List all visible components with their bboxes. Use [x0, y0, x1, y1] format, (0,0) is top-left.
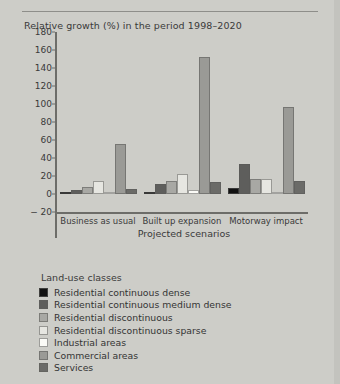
bar	[250, 179, 261, 194]
bar	[199, 57, 210, 194]
legend-items: Residential continuous denseResidential …	[39, 286, 299, 374]
plot-area	[56, 32, 308, 212]
legend-item: Industrial areas	[39, 336, 299, 349]
legend-item-label: Industrial areas	[54, 337, 126, 348]
y-axis-tick-label: 40	[16, 153, 52, 163]
legend: Land-use classes Residential continuous …	[39, 272, 299, 374]
bar	[283, 107, 294, 194]
bar-group	[60, 32, 137, 212]
legend-swatch-icon	[39, 288, 48, 297]
legend-swatch-icon	[39, 326, 48, 335]
bar-group	[228, 32, 305, 212]
bar	[210, 182, 221, 194]
bar	[188, 190, 199, 195]
y-axis-tick-label: 160	[16, 45, 52, 55]
x-axis-title: Projected scenarios	[0, 228, 340, 239]
y-axis-tick-label: 120	[16, 81, 52, 91]
legend-swatch-icon	[39, 351, 48, 360]
bar	[239, 164, 250, 194]
y-axis-tick-label: 140	[16, 63, 52, 73]
x-axis-category-label: Business as usual	[56, 216, 140, 226]
y-axis-tick-label: 20	[16, 171, 52, 181]
y-axis-tick-label: 100	[16, 99, 52, 109]
legend-item: Residential continuous medium dense	[39, 299, 299, 312]
bar	[294, 181, 305, 194]
y-axis-tick-label: 0	[16, 189, 52, 199]
legend-item-label: Residential discontinuous sparse	[54, 325, 206, 336]
legend-swatch-icon	[39, 313, 48, 322]
bar	[93, 181, 104, 195]
bar	[155, 184, 166, 194]
y-axis-tick-label: 180	[16, 27, 52, 37]
x-axis-line	[55, 212, 308, 214]
bar	[177, 174, 188, 194]
bar	[126, 189, 137, 194]
bar	[82, 187, 93, 194]
bar	[228, 188, 239, 194]
x-axis-category-label: Motorway impact	[224, 216, 308, 226]
bar	[104, 192, 115, 194]
bar	[261, 179, 272, 194]
bar	[115, 144, 126, 194]
legend-item-label: Services	[54, 362, 93, 373]
x-axis-category-label: Built up expansion	[140, 216, 224, 226]
bar	[60, 192, 71, 194]
legend-swatch-icon	[39, 363, 48, 372]
legend-item: Commercial areas	[39, 349, 299, 362]
legend-item-label: Residential continuous dense	[54, 287, 190, 298]
y-axis-tick-labels: 180160140120100806040200− 20	[14, 32, 52, 238]
y-axis-tick-label: − 20	[16, 207, 52, 217]
legend-item-label: Residential continuous medium dense	[54, 299, 232, 310]
legend-title: Land-use classes	[39, 272, 299, 283]
plot-wrapper: 180160140120100806040200− 20 Business as…	[0, 32, 340, 247]
bar	[272, 192, 283, 194]
legend-item-label: Commercial areas	[54, 350, 138, 361]
x-axis-title-text: Projected scenarios	[110, 228, 231, 239]
bar	[166, 181, 177, 194]
legend-swatch-icon	[39, 338, 48, 347]
legend-item: Residential continuous dense	[39, 286, 299, 299]
y-axis-tick-label: 80	[16, 117, 52, 127]
bar	[144, 192, 155, 194]
legend-item: Services	[39, 362, 299, 375]
chart-title: Relative growth (%) in the period 1998–2…	[24, 20, 242, 31]
bar-group	[144, 32, 221, 212]
y-axis-tick-label: 60	[16, 135, 52, 145]
bar	[71, 190, 82, 194]
figure-page: Relative growth (%) in the period 1998–2…	[0, 0, 340, 384]
legend-item: Residential discontinuous sparse	[39, 324, 299, 337]
header-divider	[22, 11, 318, 12]
legend-item: Residential discontinuous	[39, 311, 299, 324]
legend-swatch-icon	[39, 300, 48, 309]
legend-item-label: Residential discontinuous	[54, 312, 173, 323]
